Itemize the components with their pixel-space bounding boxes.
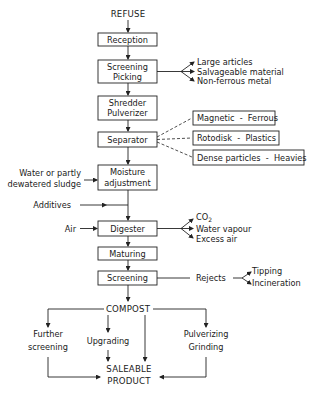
separator-label: Separator [107,135,148,145]
additives-input: Additives [33,200,128,210]
output-non-ferrous-metal: Non-ferrous metal [197,76,271,86]
final-screening-label: Screening [107,273,148,283]
refuse-label: REFUSE [111,9,146,19]
digester-box: Digester [98,221,157,236]
upgrading-label: Upgrading [87,336,130,346]
adjustment-label: adjustment [104,178,151,188]
air-input: Air [65,224,97,234]
water-input: Water or partly dewatered sludge [8,168,97,189]
rotodisk-plastics-label: Rotodisk - Plastics [197,133,276,143]
water-vapour-label: Water vapour [196,224,252,234]
reception-box: Reception [98,33,157,46]
moisture-label: Moisture [110,167,145,177]
shredder-label: Shredder [109,98,147,108]
excess-air-label: Excess air [196,234,238,244]
separator-box: Separator [98,132,157,147]
maturing-label: Maturing [109,249,146,259]
pulverizing-label: Pulverizing [184,329,229,339]
tipping-label: Tipping [251,266,282,276]
co2-label: CO2 [196,212,212,223]
additives-label: Additives [33,200,71,210]
moisture-box: Moisture adjustment [98,165,157,190]
air-label: Air [65,224,77,234]
product-label: PRODUCT [107,376,151,386]
final-screening-box: Screening [98,271,157,285]
screening-label-2: screening [28,342,68,352]
separator-outputs: Magnetic - Ferrous Rotodisk - Plastics D… [157,111,307,165]
screening-label: Screening [107,62,148,72]
magnetic-ferrous-label: Magnetic - Ferrous [197,113,278,123]
picking-label: Picking [113,72,142,82]
upgrading-branch: Upgrading [87,315,130,361]
composting-flow-diagram: REFUSE Reception Screening Picking Large… [0,0,313,396]
saleable-label: SALEABLE [106,364,151,374]
compost-label: COMPOST [106,304,151,314]
digester-label: Digester [110,224,145,234]
pulverizer-label: Pulverizer [107,108,148,118]
screening-picking-box: Screening Picking [98,60,157,83]
shredder-box: Shredder Pulverizer [98,96,157,120]
incineration-label: Incineration [252,278,301,288]
maturing-box: Maturing [98,247,157,260]
output-large-articles: Large articles [197,57,253,67]
further-label: Further [33,329,63,339]
digester-outputs: CO2 Water vapour Excess air [157,212,252,244]
water-label: Water or partly [19,168,81,178]
reception-label: Reception [107,35,148,45]
pulverizing-branch: Pulverizing Grinding [153,309,228,377]
dense-particles-label: Dense particles - Heavies [197,153,307,163]
sludge-label: dewatered sludge [8,179,81,189]
rejects-output: Rejects Tipping Incineration [157,266,301,288]
output-salvageable-material: Salvageable material [197,67,284,77]
rejects-label: Rejects [196,273,226,283]
grinding-label: Grinding [188,342,223,352]
picking-outputs: Large articles Salvageable material Non-… [157,57,284,86]
